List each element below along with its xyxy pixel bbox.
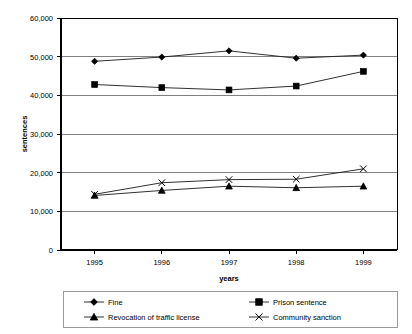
line-chart: 60,000 50,000 40,000 30,000 20,000 10,00… bbox=[0, 0, 412, 334]
square-marker-icon bbox=[293, 83, 299, 89]
y-axis-title: sentences bbox=[20, 116, 29, 153]
square-marker-icon bbox=[361, 68, 367, 74]
y-tick-label-20000: 20,000 bbox=[30, 169, 53, 178]
y-tick-label-30000: 30,000 bbox=[30, 130, 53, 139]
chart-legend: Fine Prison sentence Revocation of traff… bbox=[63, 291, 397, 327]
square-marker-icon bbox=[92, 82, 98, 88]
square-marker-icon bbox=[159, 85, 165, 91]
x-tick-label-1995: 1995 bbox=[86, 258, 103, 267]
chart-canvas: 60,000 50,000 40,000 30,000 20,000 10,00… bbox=[0, 0, 412, 334]
y-tick-label-40000: 40,000 bbox=[30, 91, 53, 100]
x-axis-title: years bbox=[219, 274, 239, 283]
y-tick-labels: 60,000 50,000 40,000 30,000 20,000 10,00… bbox=[30, 14, 53, 255]
y-tick-label-60000: 60,000 bbox=[30, 14, 53, 23]
x-tick-label-1996: 1996 bbox=[153, 258, 170, 267]
y-tick-label-0: 0 bbox=[49, 246, 53, 255]
y-tick-label-50000: 50,000 bbox=[30, 53, 53, 62]
legend-label-revocation-of-traffic-license: Revocation of traffic license bbox=[108, 313, 200, 322]
x-tick-label-1999: 1999 bbox=[355, 258, 372, 267]
x-tick-label-1998: 1998 bbox=[288, 258, 305, 267]
legend-label-community-sanction: Community sanction bbox=[273, 313, 341, 322]
x-tick-labels: 1995 1996 1997 1998 1999 bbox=[86, 258, 371, 267]
legend-label-fine: Fine bbox=[108, 298, 123, 307]
legend-label-prison-sentence: Prison sentence bbox=[273, 298, 327, 307]
y-tick-label-10000: 10,000 bbox=[30, 207, 53, 216]
square-marker-icon bbox=[256, 299, 263, 306]
x-tick-label-1997: 1997 bbox=[221, 258, 238, 267]
square-marker-icon bbox=[226, 87, 232, 93]
legend-entry-prison-sentence[interactable]: Prison sentence bbox=[249, 298, 327, 307]
x-tick-marks bbox=[95, 250, 364, 254]
